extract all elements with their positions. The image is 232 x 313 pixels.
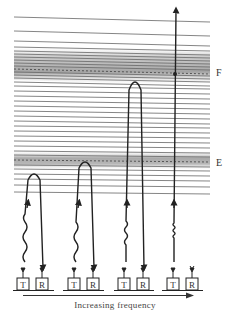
station-1: T R [13, 278, 54, 291]
ray-path-4 [173, 10, 177, 262]
transmitter-label: T [71, 280, 77, 290]
transmitter-label: T [20, 280, 26, 290]
transmitter-label: T [170, 280, 176, 290]
frequency-axis [23, 293, 194, 299]
antennas [21, 266, 194, 278]
transmitter-label: T [121, 280, 127, 290]
receiver-label: R [140, 280, 146, 290]
station-2: T R [63, 278, 104, 291]
receiver-label: R [90, 280, 96, 290]
e-layer-label: E [216, 157, 222, 168]
ray-path-2 [74, 162, 94, 268]
receiver-label: R [39, 280, 45, 290]
frequency-caption: Increasing frequency [74, 300, 156, 310]
ionosphere-frequency-diagram: F E T R [0, 0, 232, 313]
station-4: T R [162, 278, 203, 291]
station-3: T R [114, 278, 154, 291]
receiver-label: R [189, 280, 195, 290]
ray-path-1 [23, 174, 43, 268]
arrow-right-icon [186, 293, 194, 299]
f-layer-label: F [216, 67, 222, 78]
